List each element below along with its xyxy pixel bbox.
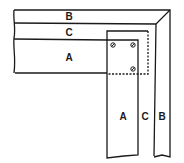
plate-a-outline <box>107 40 138 158</box>
b-c-divider-horizontal <box>14 23 156 24</box>
plate-c-hidden-edge <box>107 31 148 74</box>
label-horizontal-a: A <box>65 52 72 63</box>
label-vertical-a: A <box>119 111 126 122</box>
screw-icon <box>111 43 115 47</box>
label-vertical-c: C <box>141 111 148 122</box>
label-horizontal-b: B <box>65 11 72 22</box>
corner-joint-diagram: B C A A C B <box>0 0 184 163</box>
member-b-outline <box>14 10 170 157</box>
screw-icon <box>131 43 135 47</box>
screw-icon <box>131 67 135 71</box>
label-horizontal-c: C <box>65 27 72 38</box>
b-c-divider-vertical <box>154 24 156 156</box>
label-vertical-b: B <box>158 111 165 122</box>
mitre-line <box>156 10 170 24</box>
plate-c-outline <box>107 31 148 40</box>
c-a-divider-horizontal <box>14 39 107 40</box>
